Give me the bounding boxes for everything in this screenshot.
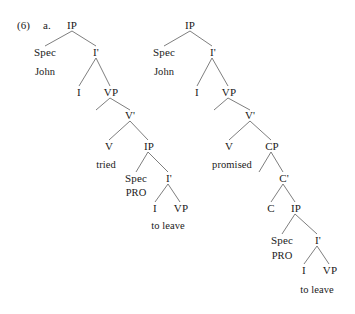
left-node-vbar: V' bbox=[125, 110, 135, 121]
left-node-ip-embedded: IP bbox=[144, 141, 154, 152]
branch-left-ibar2-vp2 bbox=[168, 184, 180, 202]
branch-right-ip-ibar bbox=[190, 31, 212, 46]
left-node-spec: Spec bbox=[34, 47, 56, 58]
right-node-vbar: V' bbox=[245, 110, 255, 121]
branch-right-ibar2-vp2 bbox=[317, 246, 329, 264]
branch-right-ip2-spec2 bbox=[282, 214, 295, 234]
left-node-ibar: I' bbox=[93, 47, 99, 58]
left-lexical-pro: PRO bbox=[126, 188, 147, 199]
left-lexical-tried: tried bbox=[96, 160, 116, 171]
left-node-ip: IP bbox=[67, 20, 77, 31]
right-lexical-john: John bbox=[154, 67, 174, 78]
right-node-ip: IP bbox=[185, 20, 195, 31]
branch-left-ip2-ibar2 bbox=[148, 152, 168, 172]
branch-right-ibar-vp bbox=[212, 58, 228, 86]
branch-left-ibar2-i2 bbox=[155, 184, 168, 202]
right-node-spec: Spec bbox=[153, 47, 175, 58]
branch-right-cp-stub bbox=[259, 152, 271, 172]
left-node-i-embedded: I bbox=[153, 203, 157, 214]
branch-right-ibar2-i2 bbox=[304, 246, 317, 264]
right-node-cp: CP bbox=[265, 141, 279, 152]
right-node-cbar: C' bbox=[279, 173, 289, 184]
left-lexical-john: John bbox=[35, 67, 55, 78]
left-node-vp-embedded: VP bbox=[174, 203, 188, 214]
left-node-v: V bbox=[105, 141, 113, 152]
branch-right-cbar-c bbox=[271, 184, 283, 202]
right-lexical-to-leave: to leave bbox=[300, 285, 334, 296]
right-node-spec-embedded: Spec bbox=[271, 235, 293, 246]
right-node-c: C bbox=[267, 203, 274, 214]
example-number: (6) bbox=[17, 20, 30, 31]
branch-left-ip2-spec2 bbox=[136, 152, 148, 172]
right-node-ibar: I' bbox=[210, 47, 216, 58]
branch-right-ip-spec bbox=[164, 31, 190, 46]
right-node-ip-embedded: IP bbox=[291, 203, 301, 214]
left-node-spec-embedded: Spec bbox=[125, 173, 147, 184]
left-lexical-to-leave: to leave bbox=[151, 221, 185, 232]
right-node-vp-embedded: VP bbox=[323, 265, 337, 276]
branch-right-ip2-ibar2 bbox=[295, 214, 317, 234]
branch-right-vbar-cp bbox=[250, 121, 271, 140]
right-node-ibar-embedded: I' bbox=[315, 235, 321, 246]
left-node-vp: VP bbox=[104, 87, 118, 98]
branch-left-ibar-vp bbox=[96, 58, 110, 86]
branch-left-vbar-v bbox=[109, 121, 130, 140]
example-sub-label: a. bbox=[43, 20, 51, 31]
right-node-v: V bbox=[225, 141, 233, 152]
right-node-vp: VP bbox=[222, 87, 236, 98]
branch-left-vbar-ip2 bbox=[130, 121, 148, 140]
branch-left-ibar-i bbox=[79, 58, 96, 86]
branch-left-ip-ibar bbox=[72, 31, 96, 46]
right-node-i-embedded: I bbox=[302, 265, 306, 276]
left-node-i: I bbox=[77, 87, 81, 98]
syntax-tree-figure: (6) a. IP Spec I' John I VP V' V IP trie… bbox=[0, 0, 355, 314]
left-node-ibar-embedded: I' bbox=[166, 173, 172, 184]
branch-right-cp-cbar bbox=[271, 152, 283, 172]
branch-right-vp-stub bbox=[214, 98, 228, 110]
right-lexical-pro: PRO bbox=[272, 251, 293, 262]
branch-right-vbar-v bbox=[229, 121, 250, 140]
branch-left-ip-spec bbox=[45, 31, 72, 46]
right-lexical-promised: promised bbox=[212, 160, 252, 171]
branch-left-vp-stub bbox=[96, 98, 110, 110]
right-node-i: I bbox=[195, 87, 199, 98]
branch-right-cbar-ip2 bbox=[283, 184, 295, 202]
branch-right-ibar-i bbox=[197, 58, 212, 86]
